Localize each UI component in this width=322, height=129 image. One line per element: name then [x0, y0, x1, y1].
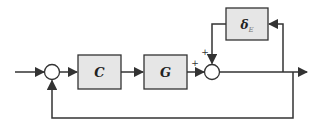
plant-block: G — [144, 55, 187, 89]
uncertainty-block: δE — [226, 8, 268, 40]
uncertainty-subscript: E — [247, 26, 253, 34]
plant-label: G — [160, 65, 171, 80]
block-diagram: C G + δE + — [0, 0, 322, 129]
feedback-summing-junction — [45, 65, 60, 80]
controller-block: C — [78, 55, 121, 89]
uncertainty-input-line — [269, 24, 283, 72]
controller-label: C — [94, 65, 105, 80]
plant-input-plus-sign: + — [191, 58, 199, 68]
uncertainty-output-line — [212, 24, 226, 64]
uncertainty-input-plus-sign: + — [201, 47, 209, 57]
output-summing-junction — [205, 65, 220, 80]
